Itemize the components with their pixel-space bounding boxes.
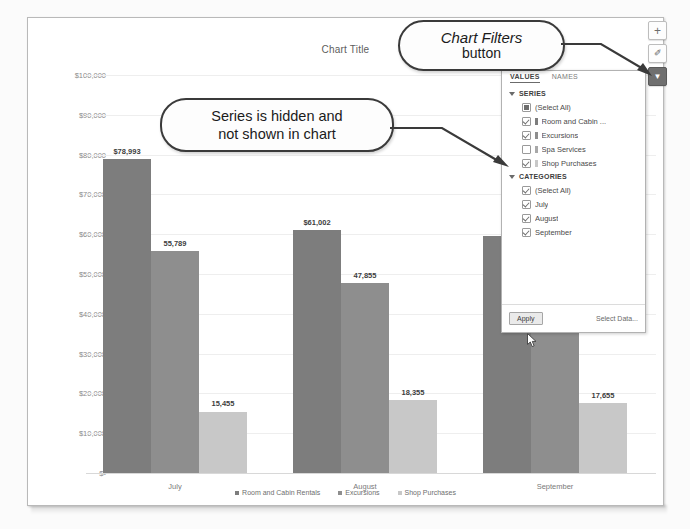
frame-shadow xyxy=(31,505,667,514)
filter-row[interactable]: July xyxy=(502,197,645,211)
callout-chart-filters-line1: Chart Filters xyxy=(441,30,523,46)
legend-item[interactable]: Room and Cabin Rentals xyxy=(235,489,320,496)
filter-row-label: September xyxy=(535,228,572,237)
filter-row[interactable]: Room and Cabin ... xyxy=(502,114,645,128)
filter-row[interactable]: Shop Purchases xyxy=(502,156,645,170)
bar[interactable] xyxy=(341,283,389,473)
legend-label: Room and Cabin Rentals xyxy=(242,489,320,496)
checkbox-icon[interactable] xyxy=(522,159,531,168)
legend-swatch-icon xyxy=(398,491,402,495)
chart-filters-button[interactable]: ▼ xyxy=(648,67,667,86)
bar-value-label: 47,855 xyxy=(354,271,377,280)
bar-value-label: 18,355 xyxy=(402,388,425,397)
chart-elements-button[interactable]: + xyxy=(648,21,667,40)
filter-section-header[interactable]: SERIES xyxy=(502,87,645,100)
series-color-swatch-icon xyxy=(535,146,538,153)
bar-value-label: $78,993 xyxy=(113,147,140,156)
bar[interactable] xyxy=(293,230,341,473)
bar[interactable] xyxy=(579,403,627,473)
filter-row[interactable]: August xyxy=(502,211,645,225)
filter-row-label: Excursions xyxy=(542,131,579,140)
filter-panel-footer: Apply Select Data... xyxy=(502,304,645,332)
bar-value-label: 15,455 xyxy=(212,399,235,408)
filter-row[interactable]: (Select All) xyxy=(502,100,645,114)
filter-tab-values[interactable]: VALUES xyxy=(510,73,540,83)
chevron-down-icon[interactable] xyxy=(509,92,515,96)
legend-swatch-icon xyxy=(338,491,342,495)
filter-row[interactable]: September xyxy=(502,225,645,239)
checkbox-icon[interactable] xyxy=(522,131,531,140)
filter-row-label: Shop Purchases xyxy=(542,159,597,168)
callout-chart-filters-line2: button xyxy=(462,46,501,61)
filter-row[interactable]: Spa Services xyxy=(502,142,645,156)
bar[interactable] xyxy=(389,400,437,473)
callout-series-hidden: Series is hidden and not shown in chart xyxy=(160,98,394,152)
chevron-down-icon[interactable] xyxy=(509,175,515,179)
filter-row-label: Spa Services xyxy=(542,145,586,154)
chart-legend[interactable]: Room and Cabin RentalsExcursionsShop Pur… xyxy=(28,489,663,496)
filter-row-label: Room and Cabin ... xyxy=(542,117,607,126)
checkbox-icon[interactable] xyxy=(522,228,531,237)
select-data-link[interactable]: Select Data... xyxy=(596,315,638,322)
bar-value-label: $61,002 xyxy=(303,218,330,227)
filter-row-label: August xyxy=(535,214,558,223)
checkbox-icon[interactable] xyxy=(522,103,531,112)
filter-panel-tabs: VALUESNAMES xyxy=(502,71,645,85)
funnel-icon: ▼ xyxy=(654,73,662,81)
bar-value-label: 17,655 xyxy=(592,391,615,400)
filter-panel-body: SERIES(Select All)Room and Cabin ...Excu… xyxy=(502,87,645,302)
filter-row-label: (Select All) xyxy=(535,186,571,195)
filter-section-title: SERIES xyxy=(519,90,546,97)
brush-icon: ✐ xyxy=(654,49,662,58)
callout-series-hidden-line2: not shown in chart xyxy=(218,125,336,143)
legend-label: Shop Purchases xyxy=(405,489,456,496)
filter-tab-names[interactable]: NAMES xyxy=(552,73,578,82)
filter-section-header[interactable]: CATEGORIES xyxy=(502,170,645,183)
legend-item[interactable]: Excursions xyxy=(338,489,379,496)
chart-side-buttons: +✐▼ xyxy=(648,21,666,90)
series-color-swatch-icon xyxy=(535,132,538,139)
apply-button[interactable]: Apply xyxy=(509,312,543,325)
checkbox-icon[interactable] xyxy=(522,117,531,126)
checkbox-icon[interactable] xyxy=(522,200,531,209)
chart-styles-button[interactable]: ✐ xyxy=(648,44,667,63)
bar[interactable] xyxy=(103,159,151,473)
bar[interactable] xyxy=(199,412,247,474)
checkbox-icon[interactable] xyxy=(522,145,531,154)
legend-swatch-icon xyxy=(235,491,239,495)
plus-icon: + xyxy=(654,25,661,37)
series-color-swatch-icon xyxy=(535,160,538,167)
callout-chart-filters: Chart Filters button xyxy=(398,20,565,71)
callout-series-hidden-line1: Series is hidden and xyxy=(211,107,342,125)
checkbox-icon[interactable] xyxy=(522,214,531,223)
filter-row-label: (Select All) xyxy=(535,103,571,112)
screenshot-root: Chart Title $100,000$90,000$80,000$70,00… xyxy=(0,0,690,529)
checkbox-icon[interactable] xyxy=(522,186,531,195)
filter-row[interactable]: (Select All) xyxy=(502,183,645,197)
filter-row-label: July xyxy=(535,200,548,209)
legend-label: Excursions xyxy=(345,489,379,496)
chart-filters-panel[interactable]: VALUESNAMES SERIES(Select All)Room and C… xyxy=(501,70,646,333)
bar[interactable] xyxy=(151,251,199,473)
filter-row[interactable]: Excursions xyxy=(502,128,645,142)
legend-item[interactable]: Shop Purchases xyxy=(398,489,456,496)
bar-value-label: 55,789 xyxy=(164,239,187,248)
series-color-swatch-icon xyxy=(535,118,538,125)
filter-section-title: CATEGORIES xyxy=(519,173,567,180)
mouse-cursor xyxy=(527,333,538,348)
